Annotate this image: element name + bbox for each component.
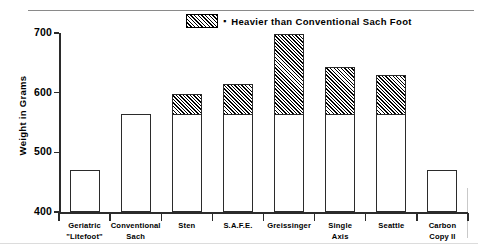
bar-hatched-segment-2 xyxy=(173,95,201,114)
x-tick-5 xyxy=(314,213,315,221)
x-category-label-2: Sten xyxy=(161,221,212,232)
bar-plain-segment-3 xyxy=(224,115,252,211)
x-tick-1 xyxy=(109,213,110,221)
bar-7 xyxy=(427,170,457,212)
bar-hatched-segment-6 xyxy=(377,76,405,115)
bar-plain-segment-0 xyxy=(71,171,99,211)
x-tick-0 xyxy=(58,213,59,221)
chart-legend: ▪ Heavier than Conventional Sach Foot xyxy=(186,14,412,28)
bar-6 xyxy=(376,75,406,212)
y-tick-600 xyxy=(54,92,59,93)
legend-label: Heavier than Conventional Sach Foot xyxy=(231,16,412,27)
bar-3 xyxy=(223,84,253,212)
bar-2 xyxy=(172,94,202,212)
bar-hatched-segment-5 xyxy=(326,68,354,115)
x-tick-6 xyxy=(365,213,366,221)
bar-plain-segment-6 xyxy=(377,115,405,211)
bar-4 xyxy=(274,34,304,212)
hatched-swatch-icon xyxy=(186,14,218,28)
bottom-divider-rule xyxy=(0,243,478,244)
bar-hatched-segment-4 xyxy=(275,35,303,114)
y-tick-500 xyxy=(54,152,59,153)
bar-plain-segment-5 xyxy=(326,115,354,211)
y-axis-line xyxy=(59,33,61,213)
x-tick-2 xyxy=(161,213,162,221)
x-category-label-1: Conventional Sach xyxy=(110,221,161,242)
y-tick-label-500: 500 xyxy=(18,145,52,157)
bar-hatched-segment-3 xyxy=(224,85,252,115)
bar-plain-segment-2 xyxy=(173,115,201,211)
x-category-label-3: S.A.F.E. xyxy=(212,221,263,232)
y-tick-label-400: 400 xyxy=(18,205,52,217)
x-category-label-7: Carbon Copy II xyxy=(417,221,468,242)
bar-plain-segment-1 xyxy=(122,115,150,211)
x-category-label-6: Seattle xyxy=(366,221,417,232)
x-tick-8 xyxy=(467,213,468,221)
x-tick-7 xyxy=(416,213,417,221)
x-category-label-4: Greissinger xyxy=(264,221,315,232)
top-divider-rule xyxy=(28,10,474,11)
bar-0 xyxy=(70,170,100,212)
y-tick-700 xyxy=(54,32,59,33)
bar-plain-segment-7 xyxy=(428,171,456,211)
bar-5 xyxy=(325,67,355,212)
y-tick-label-600: 600 xyxy=(18,86,52,98)
legend-equals-icon: ▪ xyxy=(223,17,226,26)
x-tick-3 xyxy=(212,213,213,221)
y-tick-label-700: 700 xyxy=(18,26,52,38)
x-category-label-0: Geriatric "Litefoot" xyxy=(59,221,110,242)
x-tick-4 xyxy=(263,213,264,221)
bar-plain-segment-4 xyxy=(275,115,303,211)
chart-figure: ▪ Heavier than Conventional Sach Foot We… xyxy=(0,0,478,252)
x-category-label-5: Single Axis xyxy=(315,221,366,242)
bar-1 xyxy=(121,114,151,212)
plot-area: 400500600700 xyxy=(59,33,468,213)
